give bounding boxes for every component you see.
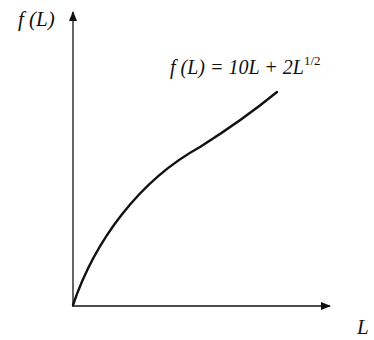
diagram-canvas: f (L) L f (L) = 10L + 2L1/2 — [0, 0, 374, 340]
function-curve — [73, 92, 277, 305]
equation-label: f (L) = 10L + 2L1/2 — [170, 53, 321, 79]
x-axis-label: L — [356, 315, 369, 339]
y-axis-label: f (L) — [18, 7, 55, 31]
